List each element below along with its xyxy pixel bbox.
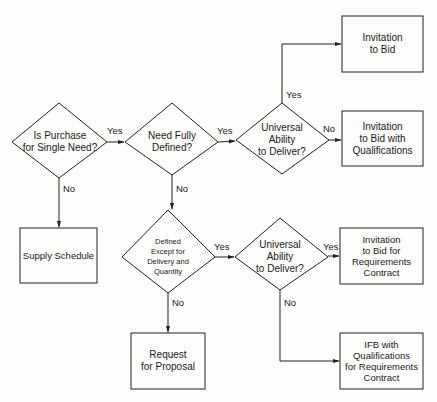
edge-d2-d3 xyxy=(218,141,235,142)
edge-label-d2-d4: No xyxy=(176,184,188,194)
label-itb-qualifications: Invitation to Bid with Qualifications xyxy=(342,111,423,166)
label-single-need: Is Purchase for Single Need? xyxy=(14,122,106,162)
edge-label-d4-rfp: No xyxy=(172,298,184,308)
edge-label-d1-supply: No xyxy=(63,184,75,194)
label-request-for-proposal: Request for Proposal xyxy=(131,333,205,389)
edge-label-d5-ifbq: No xyxy=(284,298,296,308)
label-itb-requirements: Invitation to Bid for Requirements Contr… xyxy=(340,228,423,284)
edge-label-d5-itbrc: Yes xyxy=(323,242,339,252)
flowchart-canvas: Is Purchase for Single Need? Need Fully … xyxy=(0,0,437,402)
edge-label-d2-d3: Yes xyxy=(217,126,233,136)
label-defined-except: Defined Except for Delivery and Quantity xyxy=(130,233,206,281)
label-ifb-qualifications-requirements: IFB with Qualifications for Requirements… xyxy=(340,333,423,389)
edge-label-d3-itb: Yes xyxy=(286,90,302,100)
edge-label-d1-d2: Yes xyxy=(107,126,123,136)
label-invitation-to-bid: Invitation to Bid xyxy=(342,16,423,72)
label-need-fully-defined: Need Fully Defined? xyxy=(132,122,212,162)
label-universal-ability-top: Universal Ability to Deliver? xyxy=(242,118,322,162)
edge-label-d3-itbq: No xyxy=(323,124,335,134)
label-supply-schedule: Supply Schedule xyxy=(20,228,97,283)
edge-label-d4-d5: Yes xyxy=(214,242,230,252)
label-universal-ability-bottom: Universal Ability to Deliver? xyxy=(240,235,320,279)
